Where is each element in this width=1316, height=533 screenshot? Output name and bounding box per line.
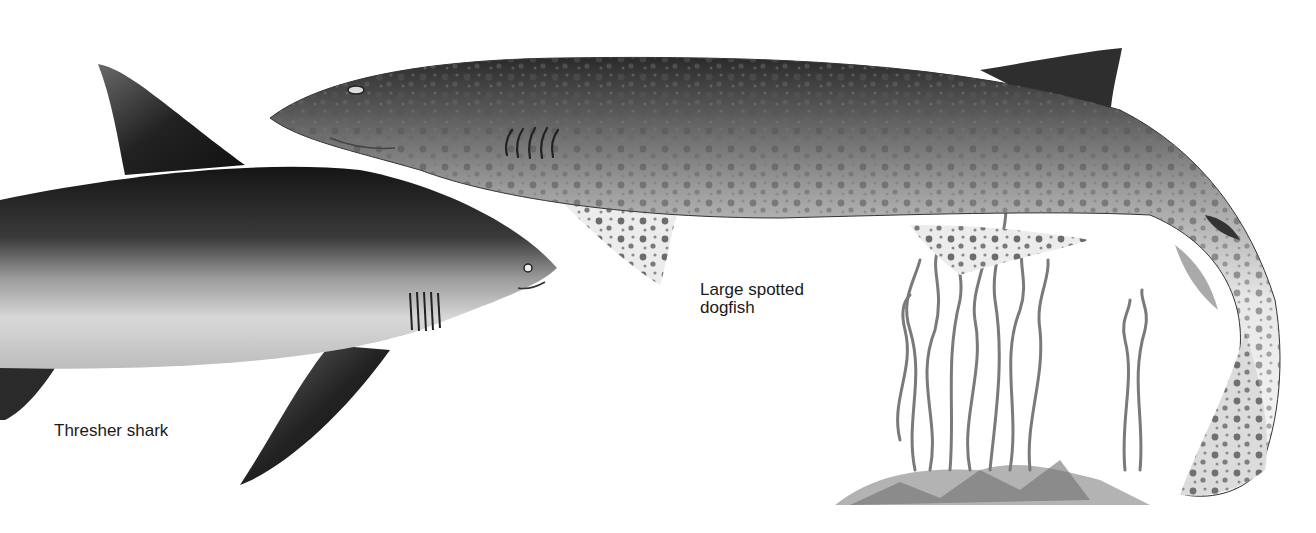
- thresher-body: [0, 167, 557, 369]
- dogfish-label-line1: Large spotted: [700, 281, 850, 299]
- thresher-pectoral-fin: [240, 345, 390, 485]
- shark-illustration: [0, 0, 1316, 533]
- dogfish-label-line2: dogfish: [700, 299, 850, 317]
- thresher-label: Thresher shark: [54, 422, 168, 440]
- thresher-dorsal-fin: [98, 64, 245, 175]
- dogfish-label: Large spotted dogfish: [700, 281, 850, 317]
